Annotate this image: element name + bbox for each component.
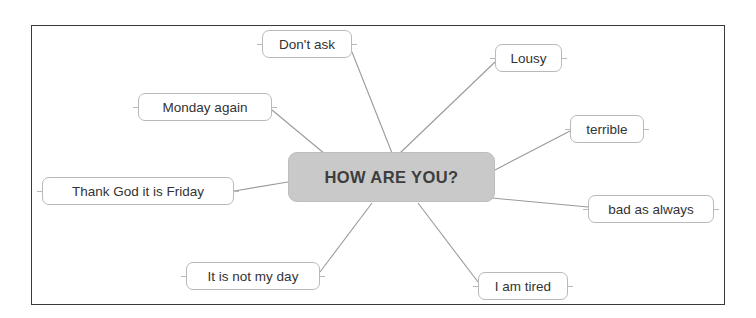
leaf-node-i-am-tired[interactable]: I am tired <box>478 272 568 300</box>
leaf-node-monday-again[interactable]: Monday again <box>138 93 272 121</box>
leaf-node-dont-ask[interactable]: Don't ask <box>262 30 352 58</box>
leaf-node-thank-god-it-is-friday[interactable]: Thank God it is Friday <box>42 177 234 205</box>
mindmap-canvas: HOW ARE YOU? Don't ask Lousy Monday agai… <box>0 0 756 318</box>
leaf-node-bad-as-always[interactable]: bad as always <box>588 195 714 223</box>
leaf-node-lousy[interactable]: Lousy <box>495 44 562 72</box>
leaf-node-it-is-not-my-day[interactable]: It is not my day <box>186 262 320 290</box>
leaf-node-terrible[interactable]: terrible <box>570 115 644 143</box>
central-topic-node[interactable]: HOW ARE YOU? <box>288 152 495 202</box>
